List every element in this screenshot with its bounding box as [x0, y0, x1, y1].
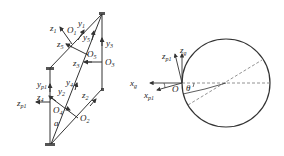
label-O4: O4: [53, 105, 63, 116]
link-diagonal-long: [51, 14, 102, 144]
label-z4: z4: [36, 92, 44, 103]
diagonal-dashed: [188, 60, 262, 105]
label-xg: xg: [129, 78, 137, 89]
diagram-canvas: z1 y1 O1 y5 z5 O5 y3 z3 O3 yp1 y4 y2 z4 …: [0, 0, 284, 156]
label-O1: O1: [67, 25, 77, 36]
label-z5: z5: [56, 39, 64, 50]
label-y3: y3: [105, 38, 113, 49]
angle-arc-left: [164, 83, 165, 88]
zp1-arrow-right: [175, 54, 182, 83]
label-O2: O2: [80, 113, 90, 124]
theta-arc: [193, 83, 194, 87]
y4-arrow: [75, 83, 77, 90]
label-a: a: [54, 118, 59, 128]
label-zg: zg: [179, 45, 187, 56]
label-theta: θ: [186, 83, 191, 93]
label-y1: y1: [77, 18, 85, 29]
label-zp1-right: zp1: [161, 51, 172, 62]
label-y2: y2: [57, 86, 65, 97]
label-O3: O3: [105, 57, 115, 68]
label-z1: z1: [49, 23, 57, 34]
label-z2: z2: [81, 90, 89, 101]
label-z3: z3: [72, 58, 80, 69]
label-y4: y4: [65, 77, 73, 88]
label-O5: O5: [87, 49, 97, 60]
label-zp1: zp1: [16, 98, 27, 109]
label-xp1: xp1: [143, 90, 154, 101]
label-O: O: [172, 84, 179, 94]
right-wheel: [150, 39, 272, 127]
label-yp1: yp1: [36, 79, 47, 90]
label-y5: y5: [82, 32, 90, 43]
z2-arrow: [90, 99, 96, 106]
